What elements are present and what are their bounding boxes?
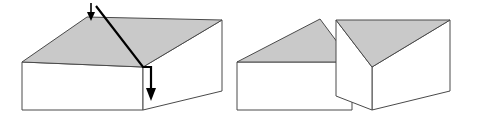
- right-panel-right-half: [336, 20, 450, 110]
- panel-before-cut: [22, 3, 222, 110]
- left-half-front-face: [237, 62, 352, 110]
- left-prism-front-face: [22, 62, 143, 110]
- left-half-top-face: [237, 19, 352, 62]
- right-panel-left-half: [237, 19, 352, 110]
- diagram-root: [0, 0, 478, 123]
- prism-cut-diagram: [0, 0, 478, 123]
- panel-after-cut: [237, 19, 450, 110]
